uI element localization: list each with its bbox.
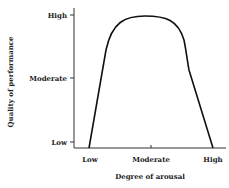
x-tick-moderate: Moderate xyxy=(132,155,170,164)
x-tick-low: Low xyxy=(82,155,99,164)
x-axis-label: Degree of arousal xyxy=(115,172,185,181)
performance-curve xyxy=(89,16,213,148)
y-tick-moderate: Moderate xyxy=(29,74,67,83)
y-tick-high: High xyxy=(48,11,67,20)
y-tick-low: Low xyxy=(51,138,68,147)
chart: High Moderate Low Low Moderate High Degr… xyxy=(0,0,229,188)
x-tick-high: High xyxy=(203,155,222,164)
y-axis-label: Quality of performance xyxy=(6,36,15,128)
